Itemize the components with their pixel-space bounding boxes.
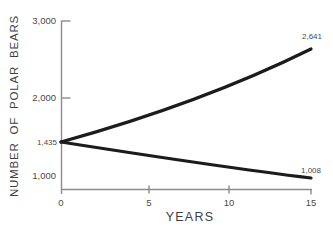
y-tick-label-1000: 1,000 (16, 171, 56, 181)
growth-end-value-label: 2,641 (282, 33, 322, 41)
x-tick-label-10: 10 (219, 198, 239, 208)
decline-curve (61, 142, 311, 178)
decline-end-value-label: 1,008 (281, 167, 321, 175)
x-tick-label-15: 15 (301, 198, 321, 208)
x-axis-title: YEARS (160, 211, 220, 224)
x-tick-label-5: 5 (139, 198, 159, 208)
y-axis-title: NUMBER OF POLAR BEARS (9, 15, 21, 197)
growth-curve (61, 49, 311, 142)
start-value-label: 1,435 (17, 139, 57, 147)
x-tick-label-0: 0 (51, 198, 71, 208)
polar-bear-population-chart: NUMBER OF POLAR BEARS YEARS 3,000 2,000 … (0, 0, 333, 230)
y-tick-label-2000: 2,000 (16, 93, 56, 103)
y-tick-label-3000: 3,000 (16, 16, 56, 26)
